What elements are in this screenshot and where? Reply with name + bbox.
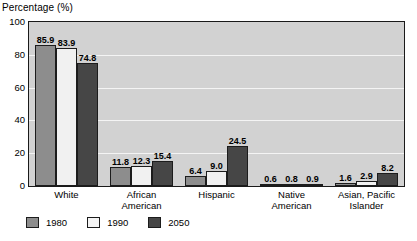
- bar-group: 6.49.024.5: [185, 22, 248, 186]
- bar-value-label: 0.9: [306, 174, 319, 184]
- bar-value-label: 15.4: [154, 151, 172, 161]
- bar-1990-2: 9.0: [206, 171, 227, 186]
- bar-1980-1: 11.8: [110, 167, 131, 186]
- y-tick-label: 60: [14, 83, 25, 93]
- y-tick-label: 40: [14, 115, 25, 125]
- bar-2050-4: 8.2: [377, 173, 398, 186]
- legend-label: 1980: [46, 217, 67, 228]
- bar-group: 85.983.974.8: [35, 22, 98, 186]
- legend-swatch-icon: [148, 217, 161, 228]
- bar-1980-0: 85.9: [35, 45, 56, 186]
- chart-legend: 198019902050: [26, 217, 209, 228]
- bar-value-label: 9.0: [210, 161, 223, 171]
- bar-value-label: 11.8: [112, 157, 129, 167]
- legend-swatch-icon: [26, 217, 39, 228]
- legend-item-1990[interactable]: 1990: [87, 217, 128, 228]
- legend-item-2050[interactable]: 2050: [148, 217, 189, 228]
- bar-group: 0.60.80.9: [260, 22, 323, 186]
- category-label: Asian, Pacific Islander: [319, 189, 414, 211]
- bar-value-label: 6.4: [189, 166, 202, 176]
- bars-layer: 85.983.974.811.812.315.46.49.024.50.60.8…: [29, 22, 404, 186]
- legend-swatch-icon: [87, 217, 100, 228]
- bar-value-label: 1.6: [339, 173, 352, 183]
- bar-2050-0: 74.8: [77, 63, 98, 186]
- y-axis-title: Percentage (%): [2, 2, 73, 14]
- bar-value-label: 74.8: [79, 53, 97, 63]
- y-tick-label: 20: [14, 148, 25, 158]
- bar-value-label: 83.9: [58, 38, 76, 48]
- y-tick-label: 80: [14, 50, 25, 60]
- bar-1980-2: 6.4: [185, 176, 206, 186]
- bar-group: 1.62.98.2: [335, 22, 398, 186]
- bar-1990-4: 2.9: [356, 181, 377, 186]
- legend-item-1980[interactable]: 1980: [26, 217, 67, 228]
- bar-1990-1: 12.3: [131, 166, 152, 186]
- bar-2050-3: 0.9: [302, 184, 323, 186]
- bar-value-label: 0.6: [264, 174, 277, 184]
- bar-1990-0: 83.9: [56, 48, 77, 186]
- bar-2050-2: 24.5: [227, 146, 248, 186]
- legend-label: 2050: [168, 217, 189, 228]
- bar-1990-3: 0.8: [281, 184, 302, 186]
- bar-value-label: 12.3: [133, 156, 151, 166]
- bar-1980-3: 0.6: [260, 184, 281, 186]
- bar-2050-1: 15.4: [152, 161, 173, 186]
- y-axis: 100806040200: [0, 21, 25, 187]
- bar-group: 11.812.315.4: [110, 22, 173, 186]
- bar-value-label: 2.9: [360, 171, 373, 181]
- y-tick-label: 100: [9, 17, 25, 27]
- x-axis-category-labels: WhiteAfrican AmericanHispanicNative Amer…: [29, 189, 404, 217]
- bar-value-label: 8.2: [381, 163, 394, 173]
- bar-1980-4: 1.6: [335, 183, 356, 186]
- bar-value-label: 0.8: [285, 174, 298, 184]
- bar-value-label: 24.5: [229, 136, 247, 146]
- legend-label: 1990: [107, 217, 128, 228]
- bar-value-label: 85.9: [37, 35, 55, 45]
